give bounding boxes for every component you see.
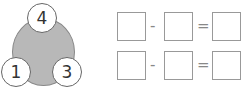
answer-box[interactable] [164, 12, 193, 41]
part-right-node: 3 [52, 57, 82, 87]
answer-box[interactable] [117, 51, 146, 80]
answer-box[interactable] [164, 51, 193, 80]
whole-node: 4 [27, 3, 57, 33]
equals-sign: = [197, 19, 210, 34]
answer-box[interactable] [212, 12, 241, 41]
minus-sign: - [150, 58, 155, 73]
equals-sign: = [197, 58, 210, 73]
answer-box[interactable] [212, 51, 241, 80]
minus-sign: - [150, 19, 155, 34]
part-left-node: 1 [1, 57, 31, 87]
answer-box[interactable] [117, 12, 146, 41]
